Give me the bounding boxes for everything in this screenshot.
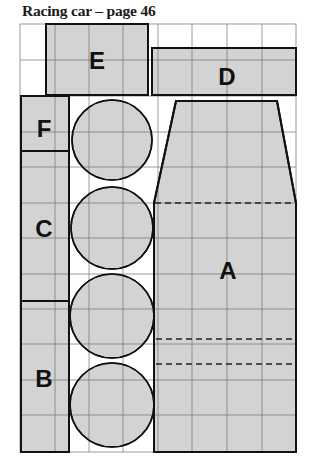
label-e: E (89, 47, 105, 74)
label-c: C (35, 215, 52, 242)
template-sheet: E D F C B A (0, 0, 310, 461)
label-b: B (35, 365, 52, 392)
label-a: A (219, 257, 236, 284)
label-d: D (218, 63, 235, 90)
label-f: F (37, 115, 52, 142)
